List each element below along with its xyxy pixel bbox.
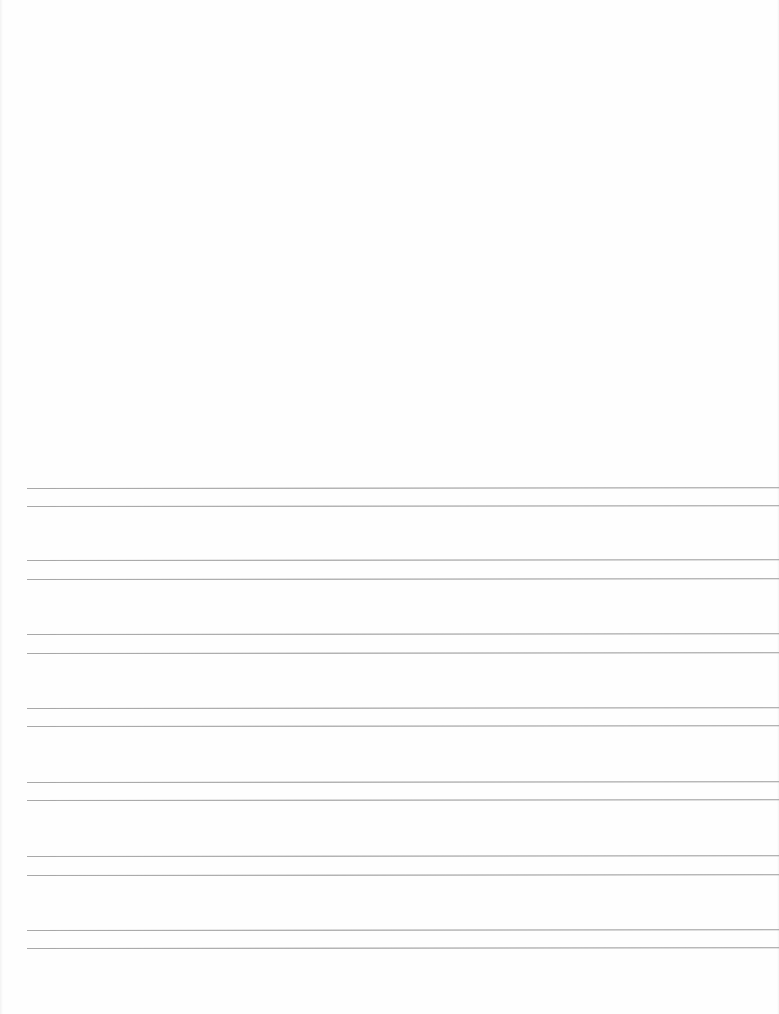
ruled-line-4-top [27, 707, 779, 709]
ruled-line-1-top [27, 487, 779, 489]
ruled-line-7-bottom [27, 947, 779, 949]
ruled-line-1-bottom [27, 505, 779, 507]
ruled-line-2-top [27, 559, 779, 561]
ruled-line-7-top [27, 929, 779, 931]
ruled-line-6-bottom [27, 874, 779, 876]
ruled-line-5-bottom [27, 799, 779, 801]
ruled-line-6-top [27, 855, 779, 857]
ruled-line-2-bottom [27, 578, 779, 580]
blank-drawing-area [0, 0, 779, 470]
paper-sheet [0, 0, 779, 1014]
ruled-line-5-top [27, 781, 779, 783]
ruled-line-3-top [27, 633, 779, 635]
ruled-line-3-bottom [27, 652, 779, 654]
ruled-line-4-bottom [27, 725, 779, 727]
